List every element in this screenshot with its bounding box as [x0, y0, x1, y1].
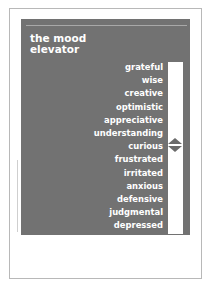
title-line-2: elevator: [30, 43, 79, 55]
arrow-down-icon: [168, 146, 182, 152]
mood-item: appreciative: [94, 114, 163, 127]
mood-item: creative: [94, 87, 163, 100]
mood-item: grateful: [94, 61, 163, 74]
panel-title: the mood elevator: [30, 33, 86, 55]
mood-item: anxious: [94, 180, 163, 193]
mood-item: irritated: [94, 167, 163, 180]
top-rule: [26, 25, 187, 26]
mood-elevator-panel: the mood elevator grateful wise creative…: [21, 19, 190, 235]
side-rule: [17, 160, 18, 232]
mood-item: defensive: [94, 193, 163, 206]
mood-item: optimistic: [94, 101, 163, 114]
mood-item: understanding: [94, 127, 163, 140]
mood-item: depressed: [94, 219, 163, 232]
mood-item: wise: [94, 74, 163, 87]
elevator-indicator-icon: [168, 138, 183, 153]
arrow-up-icon: [168, 138, 182, 144]
mood-item: judgmental: [94, 206, 163, 219]
mood-list: grateful wise creative optimistic apprec…: [94, 61, 163, 233]
mood-item: frustrated: [94, 153, 163, 166]
mood-item: curious: [94, 140, 163, 153]
